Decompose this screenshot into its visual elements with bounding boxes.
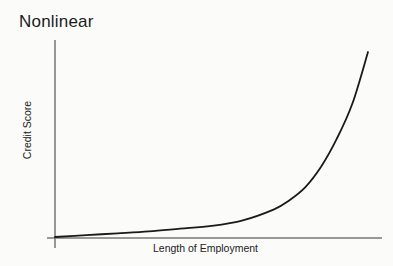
x-axis-label: Length of Employment (0, 242, 393, 254)
y-axis-label: Credit Score (21, 101, 33, 159)
plot-area (0, 0, 393, 266)
data-curve (55, 52, 368, 237)
